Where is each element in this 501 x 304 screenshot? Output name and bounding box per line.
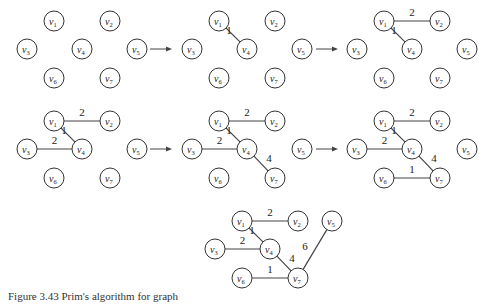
node-v5: v5 xyxy=(127,39,147,59)
node-v5: v5 xyxy=(292,39,312,59)
node-v5: v5 xyxy=(457,139,477,159)
edge-weight-label: 2 xyxy=(267,206,273,218)
node-v4: v4 xyxy=(72,39,92,59)
graph-panel-step-5: 12241v1v2v3v4v5v6v7 xyxy=(347,106,477,188)
edge-v6-v7: 1 xyxy=(394,163,430,178)
node-v4: v4 xyxy=(402,39,422,59)
node-v1: v1 xyxy=(374,111,394,131)
node-v1: v1 xyxy=(374,11,394,31)
graph-panel-step-4: 1224v1v2v3v4v5v6v7 xyxy=(182,106,312,188)
node-v5: v5 xyxy=(322,211,342,231)
edge-weight-label: 2 xyxy=(409,6,415,18)
node-v7: v7 xyxy=(100,68,120,88)
node-v2: v2 xyxy=(100,11,120,31)
node-v1: v1 xyxy=(209,111,229,131)
node-v7: v7 xyxy=(265,68,285,88)
node-v7: v7 xyxy=(430,68,450,88)
edge-weight-label: 2 xyxy=(79,106,85,118)
edge-weight-label: 2 xyxy=(382,134,388,146)
graph-panel-step-2: 12v1v2v3v4v5v6v7 xyxy=(347,6,477,88)
prim-algorithm-diagram: v1v2v3v4v5v6v71v1v2v3v4v5v6v712v1v2v3v4v… xyxy=(0,0,501,290)
node-v3: v3 xyxy=(205,239,225,259)
node-v3: v3 xyxy=(347,39,367,59)
node-v3: v3 xyxy=(17,39,37,59)
node-v6: v6 xyxy=(209,168,229,188)
node-v2: v2 xyxy=(100,111,120,131)
edge-v1-v2: 2 xyxy=(394,106,430,121)
node-v3: v3 xyxy=(17,139,37,159)
node-v2: v2 xyxy=(288,211,308,231)
edge-weight-label: 1 xyxy=(409,163,415,175)
node-v4: v4 xyxy=(72,139,92,159)
node-v2: v2 xyxy=(265,111,285,131)
node-v1: v1 xyxy=(44,11,64,31)
edge-v1-v2: 2 xyxy=(229,106,265,121)
node-v6: v6 xyxy=(44,168,64,188)
node-v4: v4 xyxy=(260,239,280,259)
edge-weight-label: 6 xyxy=(302,240,308,252)
step-arrow-icon xyxy=(316,47,338,52)
edge-v3-v4: 2 xyxy=(225,234,260,249)
edge-v6-v7: 1 xyxy=(252,263,288,278)
node-v3: v3 xyxy=(182,139,202,159)
edge-v1-v4: 1 xyxy=(226,124,240,142)
edge-v1-v2: 2 xyxy=(64,106,100,121)
edge-v1-v2: 2 xyxy=(394,6,430,21)
edge-v1-v4: 1 xyxy=(61,124,75,142)
node-v7: v7 xyxy=(430,168,450,188)
edge-weight-label: 2 xyxy=(409,106,415,118)
node-v6: v6 xyxy=(374,168,394,188)
edge-v1-v4: 1 xyxy=(249,224,263,242)
node-v1: v1 xyxy=(209,11,229,31)
graph-panel-step-6: 122416v1v2v3v4v5v6v7 xyxy=(205,206,342,288)
edge-weight-label: 2 xyxy=(217,134,223,146)
node-v2: v2 xyxy=(430,111,450,131)
node-v1: v1 xyxy=(232,211,252,231)
edge-v3-v4: 2 xyxy=(37,134,72,149)
graph-panel-step-1: 1v1v2v3v4v5v6v7 xyxy=(182,11,312,88)
node-v4: v4 xyxy=(402,139,422,159)
node-v5: v5 xyxy=(457,39,477,59)
node-v7: v7 xyxy=(265,168,285,188)
edge-weight-label: 4 xyxy=(289,252,295,264)
node-v6: v6 xyxy=(232,268,252,288)
figure-caption: Figure 3.43 Prim's algorithm for graph xyxy=(8,290,178,302)
step-arrow-icon xyxy=(150,47,172,52)
edge-weight-label: 4 xyxy=(431,152,437,164)
node-v1: v1 xyxy=(44,111,64,131)
edge-v4-v7: 4 xyxy=(254,152,272,171)
node-v2: v2 xyxy=(265,11,285,31)
step-arrow-icon xyxy=(150,147,172,152)
edge-v7-v5: 6 xyxy=(302,230,327,270)
edge-v4-v7: 4 xyxy=(419,152,437,171)
edge-weight-label: 2 xyxy=(52,134,58,146)
edge-v3-v4: 2 xyxy=(367,134,402,149)
node-v4: v4 xyxy=(237,39,257,59)
node-v3: v3 xyxy=(347,139,367,159)
node-v7: v7 xyxy=(100,168,120,188)
node-v2: v2 xyxy=(430,11,450,31)
node-v5: v5 xyxy=(292,139,312,159)
node-v6: v6 xyxy=(374,68,394,88)
edge-v1-v4: 1 xyxy=(226,24,240,42)
node-v3: v3 xyxy=(182,39,202,59)
node-v7: v7 xyxy=(288,268,308,288)
edge-v1-v4: 1 xyxy=(391,24,405,42)
node-v5: v5 xyxy=(127,139,147,159)
edge-v3-v4: 2 xyxy=(202,134,237,149)
edge-weight-label: 4 xyxy=(266,152,272,164)
edge-weight-label: 2 xyxy=(244,106,250,118)
node-v6: v6 xyxy=(44,68,64,88)
edge-v1-v4: 1 xyxy=(391,124,405,142)
graph-panel-step-3: 122v1v2v3v4v5v6v7 xyxy=(17,106,147,188)
edge-v4-v7: 4 xyxy=(277,252,295,271)
graph-panel-step-0: v1v2v3v4v5v6v7 xyxy=(17,11,147,88)
edge-weight-label: 2 xyxy=(240,234,246,246)
node-v6: v6 xyxy=(209,68,229,88)
step-arrow-icon xyxy=(316,147,338,152)
edge-v1-v2: 2 xyxy=(252,206,288,221)
edge-weight-label: 1 xyxy=(267,263,273,275)
node-v4: v4 xyxy=(237,139,257,159)
